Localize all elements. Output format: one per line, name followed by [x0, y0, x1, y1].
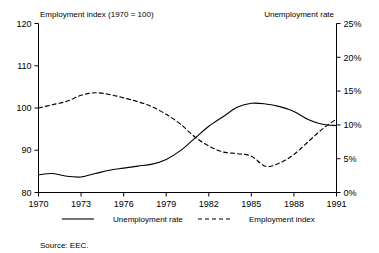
right-tick-label: 25%	[344, 19, 362, 29]
x-tick-label: 1991	[326, 199, 346, 209]
x-tick-label: 1976	[114, 199, 134, 209]
left-tick-label: 90	[21, 145, 31, 155]
left-tick-label: 100	[16, 103, 31, 113]
right-tick-label: 10%	[344, 120, 362, 130]
left-tick-label: 120	[16, 19, 31, 29]
x-tick-label: 1982	[199, 199, 219, 209]
right-axis-ticks: 0%5%10%15%20%25%	[337, 19, 362, 198]
x-tick-label: 1988	[284, 199, 304, 209]
x-tick-label: 1979	[156, 199, 176, 209]
chart-legend: Unemployment rateEmployment index	[62, 215, 315, 224]
bottom-axis-ticks: 19701973197619791982198519881991	[28, 193, 346, 209]
left-tick-label: 110	[17, 61, 31, 71]
x-tick-label: 1985	[241, 199, 261, 209]
series-group	[39, 93, 337, 177]
plot-frame	[39, 24, 337, 193]
right-tick-label: 20%	[344, 53, 362, 63]
x-tick-label: 1970	[28, 199, 48, 209]
right-tick-label: 15%	[344, 86, 362, 96]
axis-frame	[39, 24, 337, 193]
left-axis-ticks: 8090100110120	[16, 19, 38, 198]
left-tick-label: 80	[21, 188, 31, 198]
left-axis-title: Employment index (1970 = 100)	[40, 10, 154, 19]
line-chart: Employment index (1970 = 100) Unemployme…	[0, 0, 379, 253]
source-note: Source: EEC.	[40, 241, 88, 250]
axis-titles: Employment index (1970 = 100) Unemployme…	[40, 10, 335, 19]
series-line-0	[39, 103, 337, 177]
x-tick-label: 1973	[71, 199, 91, 209]
right-tick-label: 5%	[344, 154, 357, 164]
right-tick-label: 0%	[344, 188, 357, 198]
legend-label-0: Unemployment rate	[113, 215, 183, 224]
right-axis-title: Unemployment rate	[264, 10, 334, 19]
chart-figure: Employment index (1970 = 100) Unemployme…	[0, 0, 379, 253]
legend-label-1: Employment index	[249, 215, 315, 224]
series-line-1	[39, 93, 337, 167]
